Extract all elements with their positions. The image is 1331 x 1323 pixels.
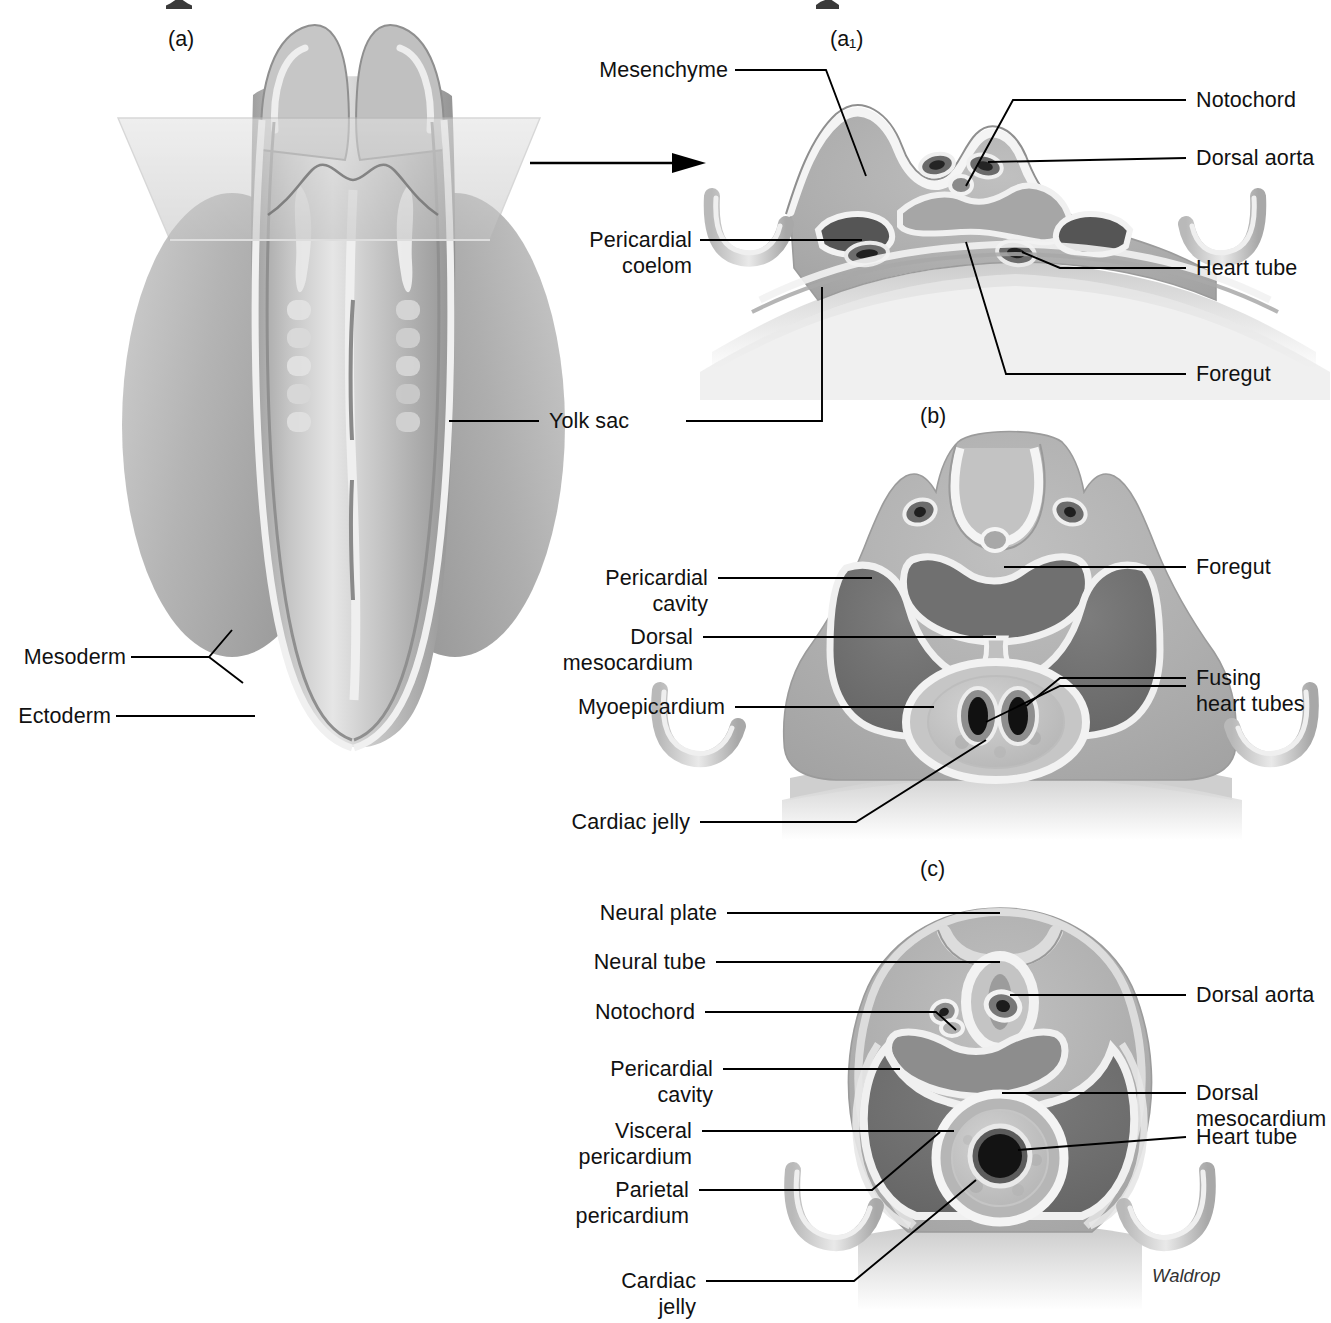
a1-notochord — [950, 176, 972, 194]
c-lateral-limb-right-hl — [1130, 1172, 1204, 1237]
section-plane — [118, 118, 540, 240]
label-pericardial-coelom: Pericardial coelom — [430, 228, 692, 279]
b-notochord — [982, 529, 1008, 551]
panel-b-id: (b) — [920, 404, 946, 429]
label-pericardial-cavity-c: Pericardial cavity — [455, 1057, 713, 1108]
figure-canvas: (a) (a₁) (b) (c) Mesoderm Ectoderm Yolk … — [0, 0, 1331, 1323]
panel-a1-id: (a₁) — [830, 27, 864, 52]
a1-lateral-limb-right — [1186, 196, 1258, 259]
label-dorsal-mesocardium-b: Dorsal mesocardium — [440, 625, 693, 676]
label-dorsal-aorta-c: Dorsal aorta — [1196, 983, 1314, 1009]
label-mesoderm: Mesoderm — [0, 645, 126, 671]
section-arrow — [530, 153, 706, 173]
panel-c-id: (c) — [920, 857, 945, 882]
label-dorsal-aorta-a1: Dorsal aorta — [1196, 146, 1314, 172]
b-fusing-heart-tube-left-lumen — [968, 697, 988, 735]
label-cardiac-jelly-c: Cardiac jelly — [450, 1269, 696, 1320]
label-neural-tube: Neural tube — [460, 950, 706, 976]
label-foregut-b: Foregut — [1196, 555, 1271, 581]
label-ectoderm: Ectoderm — [0, 704, 111, 730]
label-foregut-a1: Foregut — [1196, 362, 1271, 388]
c-notochord — [941, 1020, 963, 1036]
a1-lateral-limb-right-hl — [1192, 198, 1254, 253]
label-heart-tube-a1: Heart tube — [1196, 256, 1297, 282]
a1-lateral-limb-left — [712, 196, 786, 259]
label-parietal-pericardium: Parietal pericardium — [440, 1178, 689, 1229]
label-notochord-c: Notochord — [460, 1000, 695, 1026]
c-base-membrane — [858, 1222, 1142, 1310]
panel-b-illustration — [659, 432, 1311, 841]
label-yolk-sac: Yolk sac — [549, 409, 629, 435]
label-cardiac-jelly-b: Cardiac jelly — [440, 810, 690, 836]
label-notochord-a1: Notochord — [1196, 88, 1296, 114]
label-myoepicardium-b: Myoepicardium — [450, 695, 725, 721]
panel-c-illustration — [792, 908, 1208, 1310]
label-neural-plate: Neural plate — [460, 901, 717, 927]
panel-a-id: (a) — [168, 27, 194, 52]
label-heart-tube-c: Heart tube — [1196, 1125, 1297, 1151]
label-pericardial-cavity-b: Pericardial cavity — [450, 566, 708, 617]
label-mesenchyme: Mesenchyme — [470, 58, 728, 84]
label-visceral-pericardium: Visceral pericardium — [440, 1119, 692, 1170]
artist-signature: Waldrop — [1152, 1265, 1221, 1287]
c-heart-tube-lumen — [978, 1134, 1022, 1178]
a1-lateral-limb-left-hl — [716, 198, 780, 253]
c-lateral-limb-left-hl — [796, 1172, 870, 1237]
label-fusing-heart-tubes-b: Fusing heart tubes — [1196, 666, 1305, 717]
